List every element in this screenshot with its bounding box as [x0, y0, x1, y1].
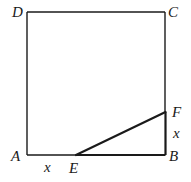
- vertex-label-a: A: [10, 148, 21, 164]
- vertex-label-e: E: [68, 160, 78, 176]
- vertex-label-b: B: [169, 148, 178, 164]
- geometry-diagram: D C A B E F x x: [0, 0, 191, 182]
- segment-ef: [76, 112, 166, 155]
- vertex-label-c: C: [168, 4, 179, 20]
- length-label-bf: x: [172, 125, 180, 141]
- vertex-label-d: D: [11, 4, 23, 20]
- length-label-ae: x: [43, 159, 51, 175]
- vertex-label-f: F: [171, 104, 182, 120]
